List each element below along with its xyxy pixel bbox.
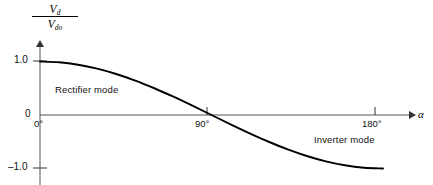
- x-axis-arrowhead: [409, 111, 416, 119]
- x-tick-label-90deg: 90°: [195, 118, 209, 129]
- x-tick-label-180deg: 180°: [362, 118, 382, 129]
- chart-figure: Vd Vdo α 1.0 0 –1.0 0° 90° 180° Rectifie…: [0, 0, 433, 185]
- annotation-rectifier-mode: Rectifier mode: [55, 84, 118, 95]
- y-axis-label-numerator: Vd: [32, 3, 78, 16]
- y-axis-label-denominator: Vdo: [32, 16, 78, 30]
- x-axis-label: α: [418, 108, 424, 120]
- y-tick-label-1: 1.0: [14, 54, 28, 65]
- annotation-inverter-mode: Inverter mode: [314, 134, 375, 145]
- y-axis-arrowhead: [36, 40, 44, 47]
- y-tick-label-0: 0: [25, 108, 31, 119]
- x-tick-label-0deg: 0°: [34, 118, 43, 129]
- y-axis-label: Vd Vdo: [32, 3, 78, 31]
- y-tick-label-minus-1: –1.0: [8, 161, 27, 172]
